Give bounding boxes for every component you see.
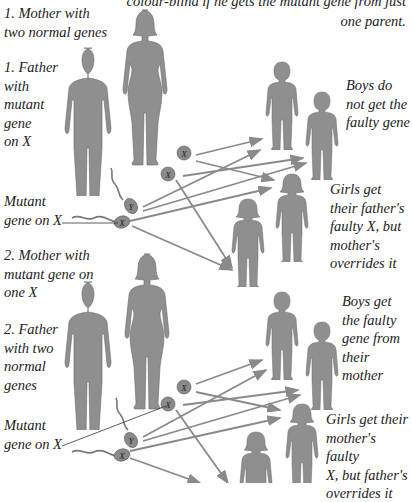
mother-2-label: 2. Mother with mutant gene on one X [4, 246, 93, 302]
father-2-label: 2. Father with two normal genes [4, 320, 58, 394]
boys-1-label: Boys do not get the faulty gene [346, 76, 410, 132]
mother-1-figure [123, 10, 167, 165]
svg-text:X: X [180, 383, 187, 393]
father-2-figure [65, 282, 111, 437]
svg-text:X: X [118, 218, 125, 228]
son-1b-figure [306, 92, 338, 180]
svg-text:X: X [118, 451, 125, 461]
father-1-label: 1. Father with mutant gene on X [4, 58, 58, 151]
father-1-figure [65, 48, 111, 203]
mother-2-figure [125, 254, 169, 409]
boys-2-label: Boys get the faulty gene from their moth… [342, 292, 400, 385]
son-1a-figure [266, 62, 298, 150]
son-2b-figure [306, 322, 338, 410]
daughter-2b-figure [240, 432, 272, 483]
son-2a-figure [266, 292, 298, 380]
mutant-1-label: Mutant gene on X [4, 192, 62, 229]
scenario-2-figures [65, 254, 338, 483]
girls-2-label: Girls get their mother's faulty X, but f… [326, 410, 412, 502]
svg-text:X: X [164, 400, 171, 410]
girls-1-label: Girls get their father's faulty X, but m… [330, 180, 404, 273]
daughter-1b-figure [232, 199, 264, 288]
daughter-2a-figure [286, 404, 318, 483]
daughter-1a-figure [276, 174, 308, 263]
svg-text:X: X [180, 149, 187, 159]
mutant-2-label: Mutant gene on X [4, 416, 62, 453]
mother-1-label: 1. Mother with two normal genes [4, 4, 107, 41]
scenario-1-figures [65, 10, 338, 288]
svg-text:X: X [164, 170, 171, 180]
